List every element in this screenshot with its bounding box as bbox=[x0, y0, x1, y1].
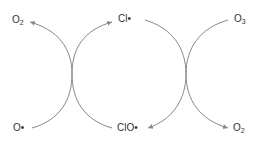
label-o2-bottom-right: O2 bbox=[233, 123, 245, 134]
arrow-o3-to-o2 bbox=[186, 20, 228, 128]
label-cl-radical: Cl• bbox=[118, 14, 131, 24]
arrow-cl-to-clo bbox=[145, 20, 186, 128]
arrow-o-to-o2 bbox=[30, 22, 72, 128]
label-clo-radical: ClO• bbox=[117, 123, 138, 133]
label-o3: O3 bbox=[234, 14, 246, 25]
ozone-cycle-diagram: O2 Cl• O3 O• ClO• O2 bbox=[0, 0, 259, 149]
arrow-clo-to-cl bbox=[72, 22, 112, 128]
label-o2-top-left: O2 bbox=[12, 15, 24, 26]
label-o-radical: O• bbox=[13, 123, 24, 133]
